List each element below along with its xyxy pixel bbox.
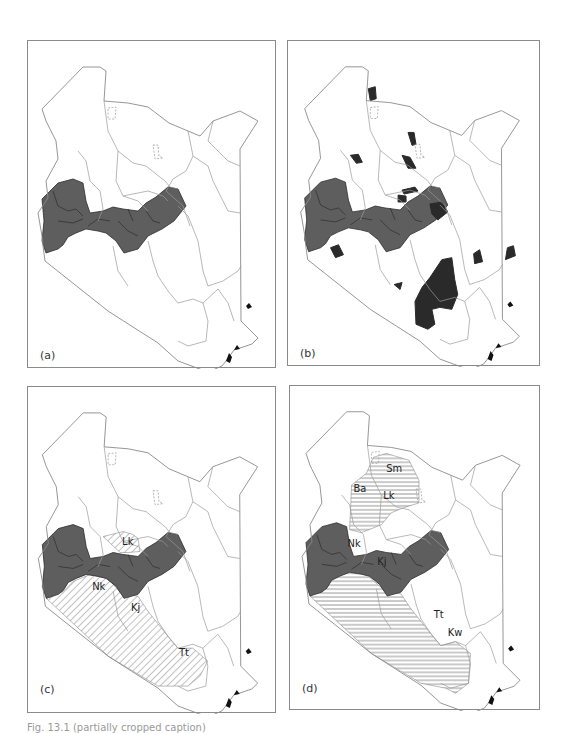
- panel-label-d: (d): [302, 682, 318, 695]
- panel-label-b: (b): [300, 347, 316, 360]
- svg-text:Sm: Sm: [386, 463, 402, 474]
- svg-text:Tt: Tt: [178, 647, 189, 658]
- svg-text:Nk: Nk: [348, 538, 361, 549]
- kenya-map-a: [28, 41, 277, 369]
- svg-text:Kj: Kj: [377, 556, 386, 567]
- svg-text:Lk: Lk: [383, 490, 395, 501]
- svg-text:Nk: Nk: [92, 581, 105, 592]
- svg-text:Kj: Kj: [131, 602, 140, 613]
- panel-label-a: (a): [40, 349, 55, 362]
- map-panel-c: Lk Nk Kj Tt (c): [27, 386, 276, 713]
- svg-text:Kw: Kw: [448, 627, 463, 638]
- svg-text:Ba: Ba: [354, 483, 367, 494]
- kenya-map-c: Lk Nk Kj Tt: [28, 387, 277, 714]
- svg-text:Lk: Lk: [122, 536, 134, 547]
- map-panel-b: (b): [287, 40, 540, 366]
- svg-text:Tt: Tt: [433, 609, 444, 620]
- figure-caption: Fig. 13.1 (partially cropped caption): [27, 722, 206, 733]
- map-panel-d: Sm Ba Lk Nk Kj Tt Kw (d): [289, 385, 540, 710]
- panel-label-c: (c): [40, 683, 55, 696]
- kenya-map-b: [288, 41, 541, 367]
- map-panel-a: (a): [27, 40, 276, 368]
- kenya-map-d: Sm Ba Lk Nk Kj Tt Kw: [290, 386, 541, 711]
